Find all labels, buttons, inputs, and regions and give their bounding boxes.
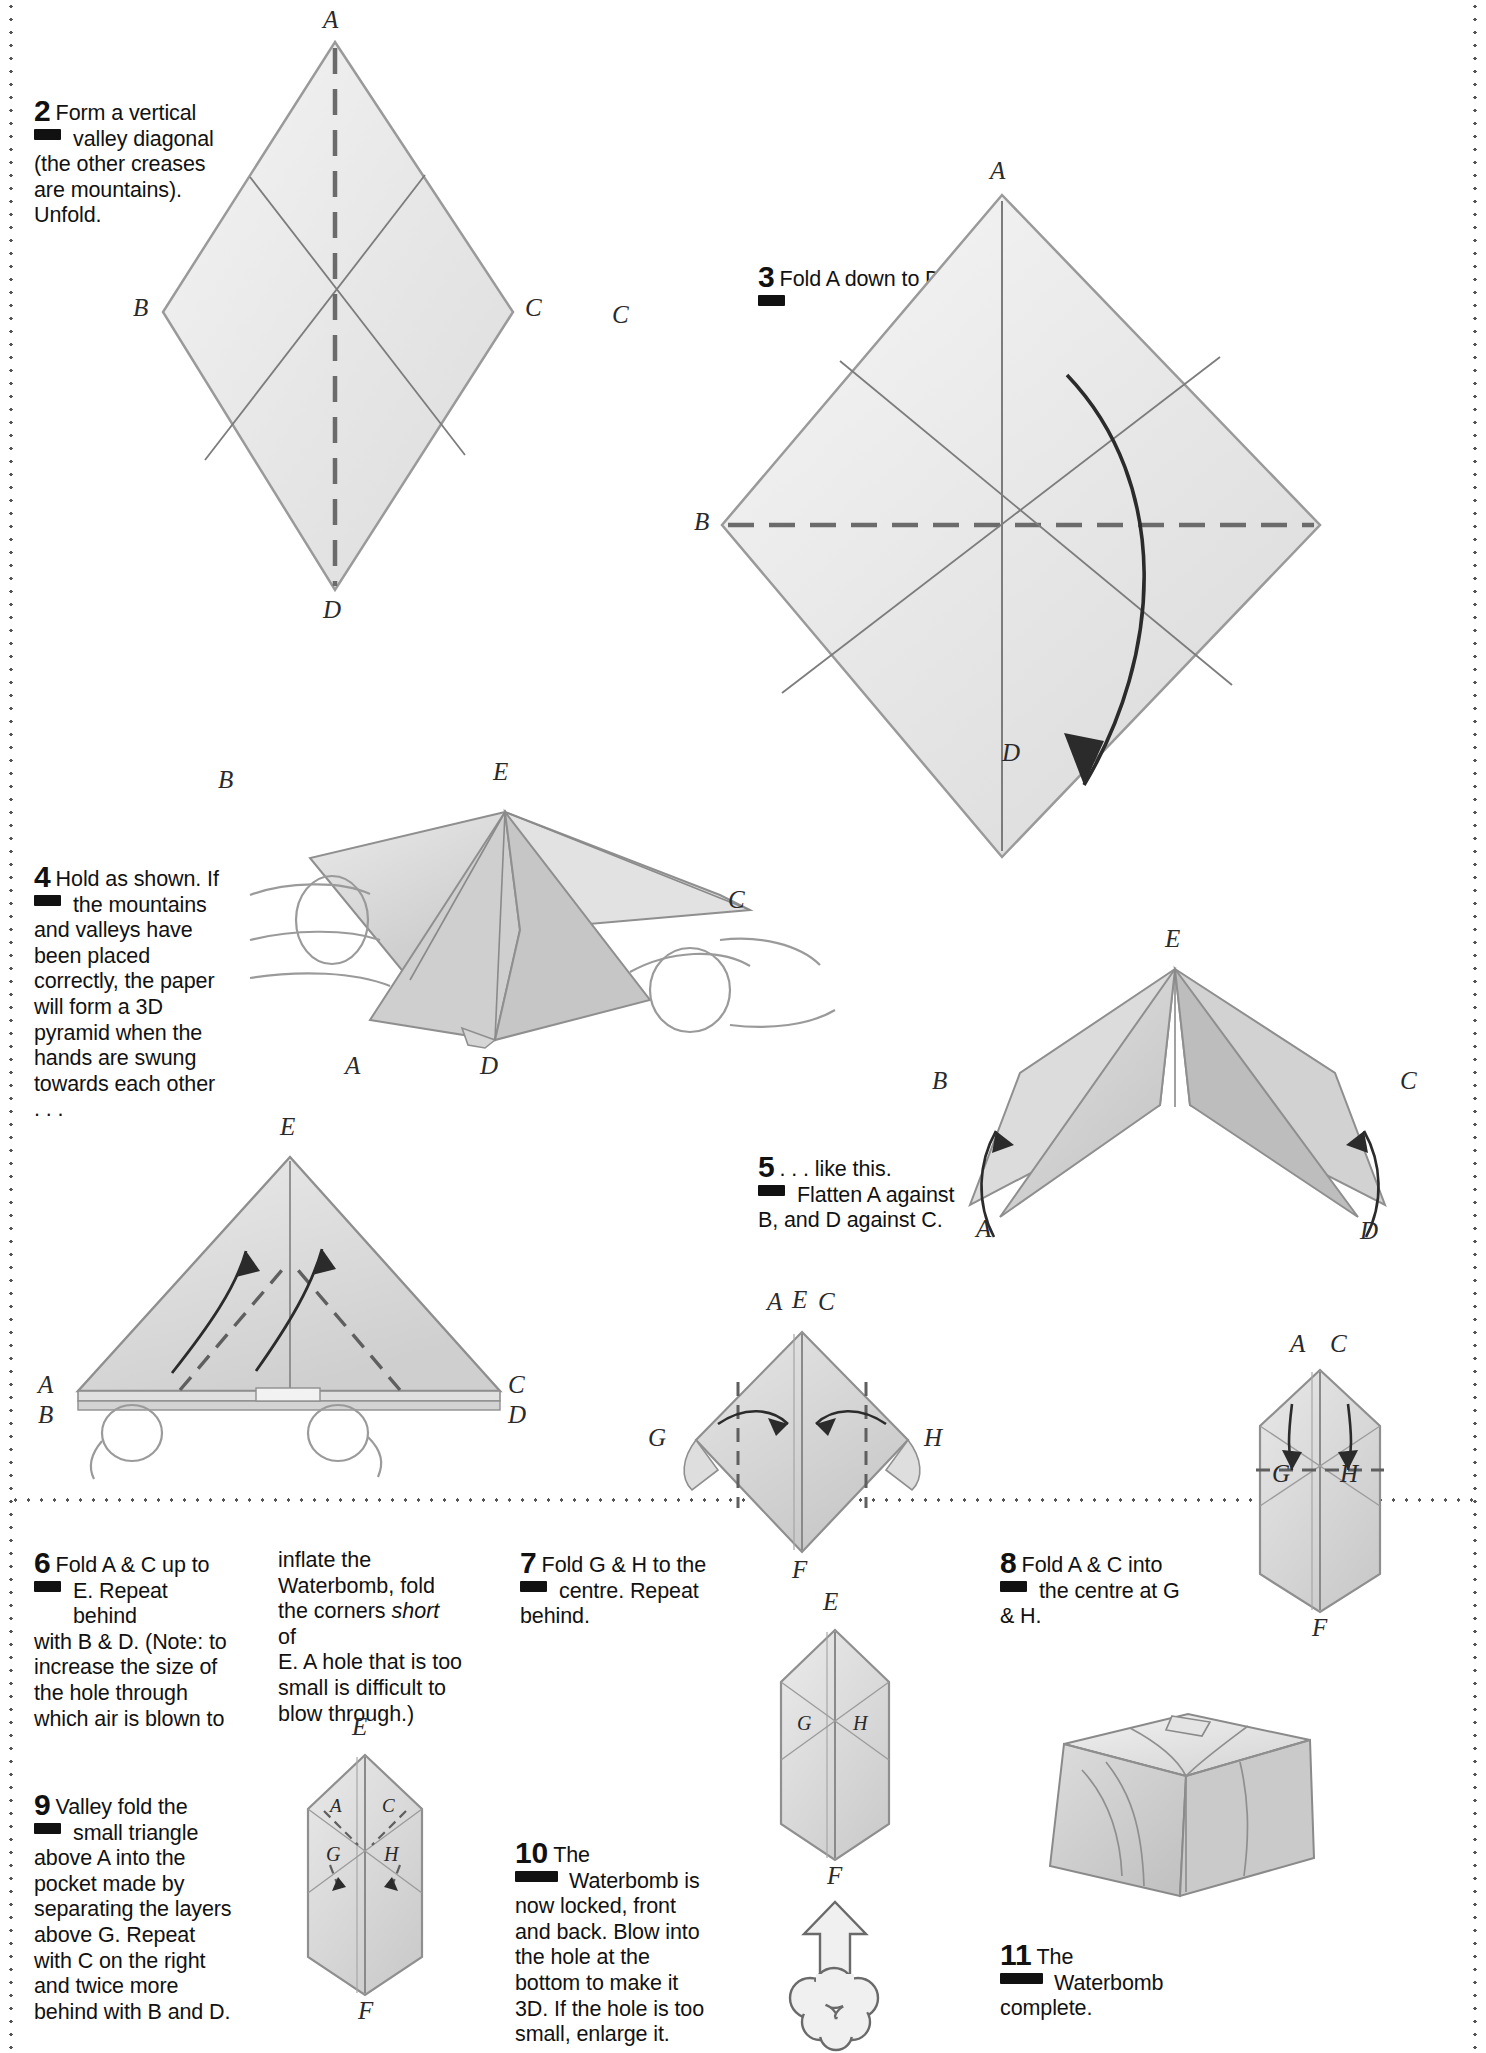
diagram-step-8: A C G H F xyxy=(1230,1360,1410,1630)
step-4-line-1: Hold as shown. If xyxy=(56,867,219,891)
step-6-marker xyxy=(34,1581,61,1592)
step-10-line-6: bottom to make it xyxy=(515,1971,715,1997)
step-4-line-4: been placed xyxy=(34,944,234,970)
label-H-step10: H xyxy=(853,1712,867,1735)
step-6-cont-line-6: blow through.) xyxy=(278,1702,463,1728)
label-C-step8: C xyxy=(1330,1330,1347,1358)
step-10-marker xyxy=(515,1871,558,1882)
label-G-step8: G xyxy=(1272,1460,1290,1488)
step-6-continuation: inflate the Waterbomb, fold the corners … xyxy=(278,1548,463,1727)
step-8-text: 8Fold A & C into the centre at G & H. xyxy=(1000,1548,1200,1630)
label-B-step5: B xyxy=(932,1067,947,1095)
step-9-line-4: pocket made by xyxy=(34,1872,249,1898)
label-A-step8: A xyxy=(1290,1330,1305,1358)
step-6-cont-line-1: inflate the xyxy=(278,1548,463,1574)
step-10-line-2: Waterbomb is xyxy=(569,1869,700,1893)
label-E-step9: E xyxy=(352,1713,367,1741)
label-E-step10: E xyxy=(823,1588,838,1616)
diagram-step-6: E A B C D xyxy=(60,1145,530,1485)
step-11-line-2: Waterbomb xyxy=(1054,1971,1163,1995)
label-C-step5: C xyxy=(1400,1067,1417,1095)
step-9-line-5: separating the layers xyxy=(34,1897,249,1923)
label-A-step2: A xyxy=(323,6,338,34)
diagram-step-3: A B C D xyxy=(712,185,1332,885)
step-9-line-8: and twice more xyxy=(34,1974,249,2000)
step-11-text: 11The Waterbomb complete. xyxy=(1000,1940,1200,2022)
step-9-number: 9 xyxy=(34,1790,51,1820)
step-9-line-6: above G. Repeat xyxy=(34,1923,249,1949)
label-E-step5: E xyxy=(1165,925,1180,953)
step-6-number: 6 xyxy=(34,1548,51,1578)
step-5-line-3: B, and D against C. xyxy=(758,1208,978,1234)
step-10-number: 10 xyxy=(515,1838,548,1868)
label-C-step9: C xyxy=(382,1795,395,1817)
label-C-step4: C xyxy=(728,886,745,914)
label-F-step9: F xyxy=(358,1997,373,2025)
step-7-line-1: Fold G & H to the xyxy=(542,1553,706,1577)
step-10-line-7: 3D. If the hole is too xyxy=(515,1997,715,2023)
page-rule-right xyxy=(1473,0,1477,2053)
diagram-step-9: E A C G H F xyxy=(280,1745,450,2015)
step-11-number: 11 xyxy=(1000,1940,1032,1970)
step-8-line-2: the centre at G xyxy=(1039,1579,1180,1603)
step-6-line-2: E. Repeat behind xyxy=(73,1579,168,1629)
label-C-step7: C xyxy=(818,1288,835,1316)
step-4-line-5: correctly, the paper xyxy=(34,969,234,995)
label-F-step8: F xyxy=(1312,1614,1327,1642)
step-9-line-2: small triangle xyxy=(73,1821,198,1845)
step-11-line-1: The xyxy=(1037,1945,1074,1969)
step-4-line-7: pyramid when the xyxy=(34,1021,234,1047)
step-4-line-6: will form a 3D xyxy=(34,995,234,1021)
step-5-line-1: . . . like this. xyxy=(780,1157,892,1181)
label-H-step7: H xyxy=(924,1424,942,1452)
step-5-marker xyxy=(758,1185,785,1196)
step-4-marker xyxy=(34,895,61,906)
step-10-line-8: small, enlarge it. xyxy=(515,2022,715,2048)
step-6-line-6: which air is blown to xyxy=(34,1707,234,1733)
label-D-step4: D xyxy=(480,1052,498,1080)
label-E-step6: E xyxy=(280,1113,295,1141)
label-F-step10: F xyxy=(827,1862,842,1890)
step-6-italic-short: short xyxy=(392,1599,440,1623)
label-G-step7: G xyxy=(648,1424,666,1452)
label-B-step6: B xyxy=(38,1401,53,1429)
label-F-step7: F xyxy=(792,1556,807,1584)
step-10-line-5: the hole at the xyxy=(515,1945,715,1971)
label-A-step9: A xyxy=(330,1795,342,1817)
label-G-step10: G xyxy=(797,1712,811,1735)
step-9-line-1: Valley fold the xyxy=(56,1795,188,1819)
step-6-cont-line-3: the corners short of xyxy=(278,1599,463,1650)
step-4-line-9: towards each other xyxy=(34,1072,234,1098)
step-4-line-10: . . . xyxy=(34,1097,234,1123)
diagram-step-7: A E C G H F xyxy=(672,1320,932,1570)
label-A-step6: A xyxy=(38,1371,53,1399)
step-7-line-2: centre. Repeat xyxy=(559,1579,699,1603)
step-6-cont-line-2: Waterbomb, fold xyxy=(278,1574,463,1600)
step-7-number: 7 xyxy=(520,1548,537,1578)
label-D-step2: D xyxy=(323,596,341,624)
label-E-step4: E xyxy=(493,758,508,786)
step-10-line-4: and back. Blow into xyxy=(515,1920,715,1946)
step-6-text: 6Fold A & C up to E. Repeat behind with … xyxy=(34,1548,234,1732)
step-9-line-7: with C on the right xyxy=(34,1949,249,1975)
label-A-step5: A xyxy=(976,1215,991,1243)
step-6-cont-line-5: small is difficult to xyxy=(278,1676,463,1702)
diagram-step-5: E B C A D xyxy=(960,955,1400,1305)
step-7-text: 7Fold G & H to the centre. Repeat behind… xyxy=(520,1548,720,1630)
step-9-line-9: behind with B and D. xyxy=(34,2000,249,2026)
step-8-line-1: Fold A & C into xyxy=(1022,1553,1163,1577)
step-8-marker xyxy=(1000,1581,1027,1592)
label-H-step8: H xyxy=(1340,1460,1358,1488)
step-2-marker xyxy=(34,129,61,140)
page-rule-left xyxy=(9,0,13,2053)
step-8-number: 8 xyxy=(1000,1548,1017,1578)
label-E-step7: E xyxy=(792,1286,807,1314)
blow-arrow-step-10 xyxy=(780,1900,890,2050)
step-5-number: 5 xyxy=(758,1152,775,1182)
step-9-line-3: above A into the xyxy=(34,1846,249,1872)
step-6-line-1: Fold A & C up to xyxy=(56,1553,210,1577)
step-2-number: 2 xyxy=(34,96,51,126)
label-H-step9: H xyxy=(384,1843,398,1866)
step-4-line-2: the mountains xyxy=(73,893,207,917)
step-6-cont-line-4: E. A hole that is too xyxy=(278,1650,463,1676)
